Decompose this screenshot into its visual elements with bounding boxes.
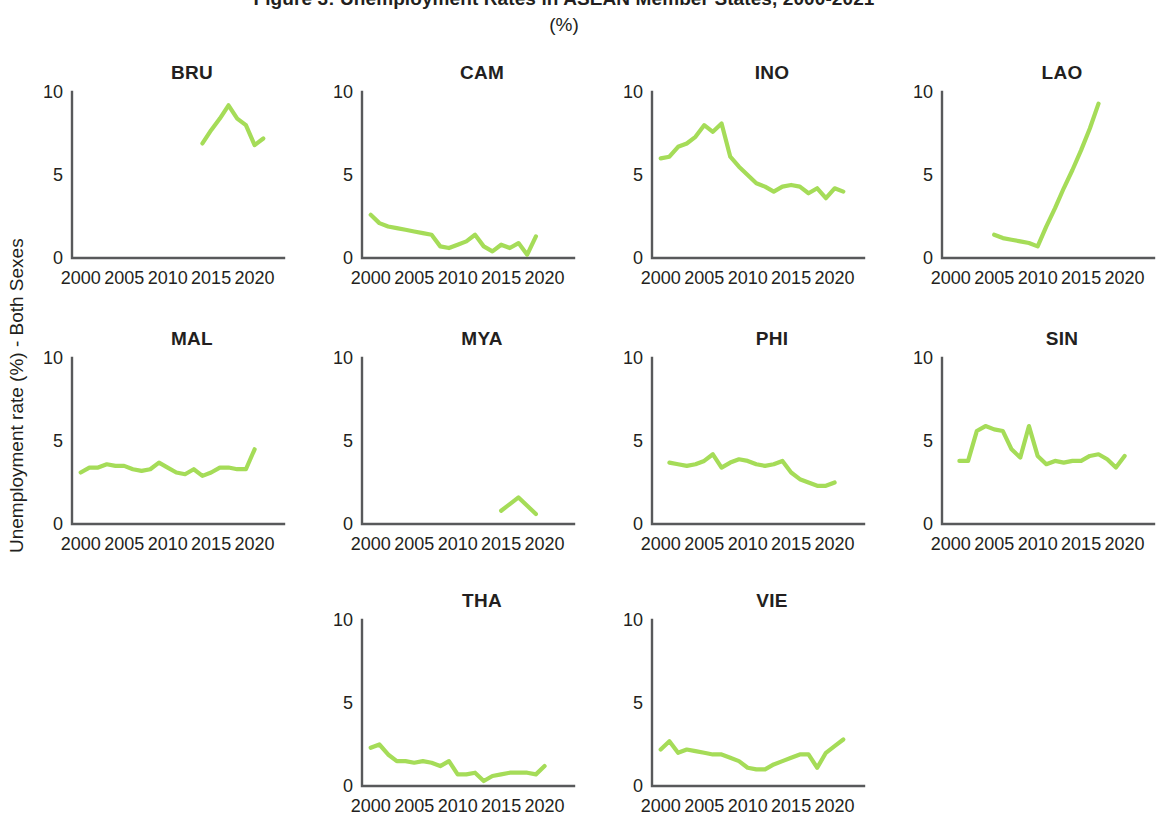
series-line-tha bbox=[371, 745, 545, 782]
x-tick-label: 2010 bbox=[438, 268, 478, 288]
y-tick-label: 5 bbox=[633, 693, 643, 713]
panel-cam: CAM051020002005201020152020 bbox=[322, 62, 582, 298]
x-tick-label: 2010 bbox=[148, 268, 188, 288]
series-line-phi bbox=[669, 454, 834, 486]
panel-title-mya: MYA bbox=[362, 328, 602, 350]
x-tick-label: 2010 bbox=[438, 534, 478, 554]
plot-area-tha: 051020002005201020152020 bbox=[322, 620, 582, 817]
y-tick-label: 10 bbox=[333, 82, 353, 102]
series-line-lao bbox=[994, 104, 1098, 247]
x-tick-label: 2000 bbox=[641, 796, 681, 816]
x-tick-label: 2005 bbox=[974, 268, 1014, 288]
y-tick-label: 5 bbox=[53, 431, 63, 451]
x-tick-label: 2015 bbox=[481, 534, 521, 554]
x-tick-label: 2000 bbox=[641, 268, 681, 288]
x-tick-label: 2015 bbox=[481, 796, 521, 816]
panel-title-bru: BRU bbox=[72, 62, 312, 84]
y-tick-label: 10 bbox=[913, 348, 933, 368]
x-tick-label: 2000 bbox=[351, 268, 391, 288]
axis-lines bbox=[72, 358, 284, 524]
y-tick-label: 10 bbox=[623, 82, 643, 102]
x-tick-label: 2020 bbox=[525, 534, 565, 554]
axis-lines bbox=[72, 92, 284, 258]
x-tick-label: 2005 bbox=[684, 796, 724, 816]
panel-mal: MAL051020002005201020152020 bbox=[32, 328, 292, 564]
y-tick-label: 0 bbox=[53, 248, 63, 268]
y-tick-label: 5 bbox=[923, 165, 933, 185]
x-tick-label: 2000 bbox=[351, 534, 391, 554]
series-line-mya bbox=[501, 497, 536, 514]
x-tick-label: 2005 bbox=[684, 534, 724, 554]
x-tick-label: 2005 bbox=[104, 268, 144, 288]
panel-title-phi: PHI bbox=[652, 328, 892, 350]
x-tick-label: 2010 bbox=[1018, 534, 1058, 554]
y-tick-label: 5 bbox=[633, 431, 643, 451]
x-tick-label: 2020 bbox=[1105, 268, 1145, 288]
panel-title-mal: MAL bbox=[72, 328, 312, 350]
y-tick-label: 10 bbox=[333, 610, 353, 630]
y-tick-label: 10 bbox=[43, 348, 63, 368]
x-tick-label: 2010 bbox=[148, 534, 188, 554]
x-tick-label: 2015 bbox=[191, 534, 231, 554]
y-tick-label: 0 bbox=[633, 776, 643, 796]
plot-area-lao: 051020002005201020152020 bbox=[902, 92, 1160, 328]
x-tick-label: 2020 bbox=[235, 268, 275, 288]
x-tick-label: 2020 bbox=[525, 796, 565, 816]
panel-title-ino: INO bbox=[652, 62, 892, 84]
series-line-cam bbox=[371, 215, 536, 255]
series-line-vie bbox=[661, 740, 844, 770]
y-tick-label: 0 bbox=[923, 248, 933, 268]
y-tick-label: 10 bbox=[623, 610, 643, 630]
axis-lines bbox=[362, 358, 574, 524]
series-line-bru bbox=[202, 105, 263, 145]
series-line-ino bbox=[661, 124, 844, 199]
panel-phi: PHI051020002005201020152020 bbox=[612, 328, 872, 564]
y-tick-label: 10 bbox=[43, 82, 63, 102]
x-tick-label: 2020 bbox=[815, 268, 855, 288]
panel-title-sin: SIN bbox=[942, 328, 1160, 350]
x-tick-label: 2010 bbox=[438, 796, 478, 816]
panel-sin: SIN051020002005201020152020 bbox=[902, 328, 1160, 564]
x-tick-label: 2015 bbox=[771, 796, 811, 816]
x-tick-label: 2015 bbox=[771, 534, 811, 554]
y-tick-label: 5 bbox=[343, 165, 353, 185]
x-tick-label: 2000 bbox=[61, 534, 101, 554]
y-tick-label: 10 bbox=[623, 348, 643, 368]
panel-bru: BRU051020002005201020152020 bbox=[32, 62, 292, 298]
x-tick-label: 2020 bbox=[815, 534, 855, 554]
x-tick-label: 2020 bbox=[1105, 534, 1145, 554]
panel-vie: VIE051020002005201020152020 bbox=[612, 590, 872, 817]
plot-area-vie: 051020002005201020152020 bbox=[612, 620, 872, 817]
panel-ino: INO051020002005201020152020 bbox=[612, 62, 872, 298]
x-tick-label: 2000 bbox=[351, 796, 391, 816]
y-tick-label: 5 bbox=[633, 165, 643, 185]
x-tick-label: 2015 bbox=[771, 268, 811, 288]
y-tick-label: 0 bbox=[923, 514, 933, 534]
figure-title: Figure 3: Unemployment Rates in ASEAN Me… bbox=[0, 0, 1128, 10]
panel-lao: LAO051020002005201020152020 bbox=[902, 62, 1160, 298]
plot-area-phi: 051020002005201020152020 bbox=[612, 358, 872, 594]
plot-area-ino: 051020002005201020152020 bbox=[612, 92, 872, 328]
figure-subtitle: (%) bbox=[0, 14, 1128, 36]
y-tick-label: 10 bbox=[913, 82, 933, 102]
panel-title-tha: THA bbox=[362, 590, 602, 612]
y-tick-label: 5 bbox=[923, 431, 933, 451]
x-tick-label: 2015 bbox=[1061, 534, 1101, 554]
x-tick-label: 2010 bbox=[728, 796, 768, 816]
y-tick-label: 0 bbox=[633, 248, 643, 268]
axis-lines bbox=[362, 92, 574, 258]
x-tick-label: 2005 bbox=[394, 796, 434, 816]
x-tick-label: 2005 bbox=[974, 534, 1014, 554]
plot-area-mya: 051020002005201020152020 bbox=[322, 358, 582, 594]
x-tick-label: 2005 bbox=[684, 268, 724, 288]
panel-title-vie: VIE bbox=[652, 590, 892, 612]
axis-lines bbox=[652, 358, 864, 524]
plot-area-cam: 051020002005201020152020 bbox=[322, 92, 582, 328]
y-axis-title: Unemployment rate (%) - Both Sexes bbox=[6, 253, 28, 553]
y-tick-label: 0 bbox=[343, 776, 353, 796]
y-tick-label: 0 bbox=[343, 248, 353, 268]
x-tick-label: 2010 bbox=[1018, 268, 1058, 288]
x-tick-label: 2010 bbox=[728, 268, 768, 288]
y-tick-label: 10 bbox=[333, 348, 353, 368]
